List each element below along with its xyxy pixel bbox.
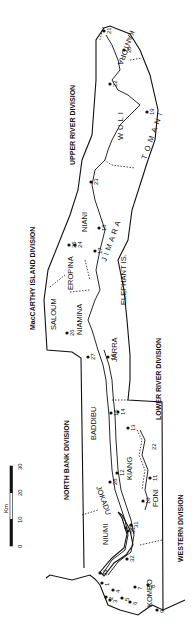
scale-tick: 0 [17,544,23,548]
location-number: 5 [124,597,130,601]
scale-tick: 20 [17,489,23,496]
location-number: 26 [69,329,75,336]
location-number: 25 [71,241,77,248]
location-number: 4 [115,589,121,593]
river-gambia [88,35,140,575]
location-number: 6 [132,601,138,605]
region-label: NIANI [80,212,89,232]
location-number: 20 [126,46,132,53]
location-number: 19 [149,108,155,115]
location-number: 12 [119,469,125,476]
location-number: 14 [120,408,126,415]
scale-bar: 0 10 20 30 Km [3,463,23,548]
location-number: 33 [102,569,108,576]
scale-tick: 30 [17,463,23,470]
region-label: WULI [116,109,125,140]
region-label: NIAMINA [75,304,84,335]
location-number: 10 [145,497,151,504]
location-number: 21 [106,27,112,34]
region-label: ELEPHANT IS. [119,254,128,305]
location-number: 31 [133,521,139,528]
location-number: 17 [97,247,103,254]
location-number: 22 [112,80,118,87]
location-number: 7 [137,586,143,590]
division-label: NORTH BANK DIVISION [63,420,70,500]
region-label: EROPINA [66,256,75,290]
location-number: 1 [104,582,110,586]
area-number-22: 22 [151,443,157,450]
location-number: 24 [77,241,83,248]
gambia-map: UPPER RIVER DIVISION MacCARTHY ISLAND DI… [0,0,194,637]
location-number: 32 [129,555,135,562]
scale-tick: 10 [17,516,23,523]
location-number: 13 [130,424,136,431]
division-label: WESTERN DIVISION [177,494,184,562]
location-number: 16 [110,353,116,360]
division-label: UPPER RIVER DIVISION [69,85,76,165]
region-label: KIANG [125,456,134,480]
location-number: 23 [93,178,99,185]
location-number: 15 [113,409,119,416]
region-label: BADDIBU [89,407,98,440]
region-label: KOMBO [145,579,154,607]
region-label: JOKADU [94,485,113,517]
division-label: LOWER RIVER DIVISION [155,338,162,420]
region-label: SALOUM [49,298,58,330]
region-label: FONI [151,489,160,507]
location-number: 27 [90,353,96,360]
location-number: 28 [112,478,118,485]
scale-unit: Km [3,504,9,513]
location-number: 18 [101,224,107,231]
region-label: NIUMI [101,524,110,545]
division-label: MacCARTHY ISLAND DIVISION [29,227,36,330]
location-number: 11 [152,474,158,481]
